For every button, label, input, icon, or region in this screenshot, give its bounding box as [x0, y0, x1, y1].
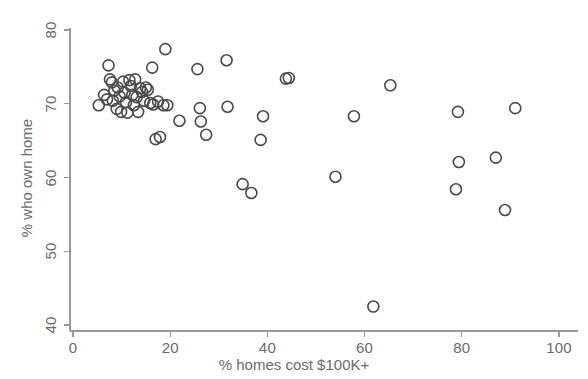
data-point: [255, 134, 266, 145]
y-tick-label-80: 80: [42, 21, 59, 38]
data-point: [237, 179, 248, 190]
data-point: [160, 44, 171, 55]
y-tick-label-70: 70: [42, 95, 59, 112]
data-point: [221, 55, 232, 66]
data-point: [490, 152, 501, 163]
data-point: [147, 62, 158, 73]
y-axis-title: % who own home: [18, 119, 35, 237]
data-point: [195, 116, 206, 127]
data-point: [258, 111, 269, 122]
x-tick-label-20: 20: [162, 339, 179, 356]
data-point: [368, 301, 379, 312]
x-tick-label-40: 40: [259, 339, 276, 356]
y-tick-label-40: 40: [42, 316, 59, 333]
data-point: [452, 106, 463, 117]
x-tick-label-0: 0: [69, 339, 78, 356]
data-point: [222, 101, 233, 112]
x-tick-label-60: 60: [356, 339, 373, 356]
axes-group: [64, 28, 578, 337]
data-point: [510, 103, 521, 114]
data-point: [453, 157, 464, 168]
data-point: [246, 187, 257, 198]
scatter-chart: 0204060801004050607080 % homes cost $100…: [0, 0, 588, 379]
data-point: [348, 111, 359, 122]
x-tick-label-100: 100: [546, 339, 572, 356]
x-tick-label-80: 80: [453, 339, 470, 356]
data-points-group: [93, 44, 521, 312]
data-point: [122, 107, 133, 118]
data-point: [330, 171, 341, 182]
y-tick-label-60: 60: [42, 169, 59, 186]
data-point: [385, 80, 396, 91]
y-tick-label-50: 50: [42, 243, 59, 260]
data-point: [192, 64, 203, 75]
data-point: [103, 60, 114, 71]
plot-canvas: [0, 0, 588, 379]
data-point: [500, 204, 511, 215]
data-point: [194, 103, 205, 114]
data-point: [201, 129, 212, 140]
x-axis-title: % homes cost $100K+: [219, 356, 370, 373]
data-point: [450, 184, 461, 195]
data-point: [174, 115, 185, 126]
